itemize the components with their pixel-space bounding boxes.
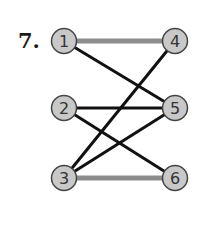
node-label: 6: [170, 169, 180, 188]
node-label: 1: [59, 32, 69, 51]
node-4: 4: [163, 29, 188, 54]
node-label: 4: [170, 32, 180, 51]
edges: [64, 41, 175, 178]
node-2: 2: [52, 96, 77, 121]
node-label: 5: [170, 99, 180, 118]
node-label: 2: [59, 99, 69, 118]
bipartite-graph: 123456: [0, 0, 199, 231]
edge-1-5: [64, 41, 175, 108]
node-3: 3: [52, 166, 77, 191]
node-label: 3: [59, 169, 69, 188]
node-5: 5: [163, 96, 188, 121]
node-1: 1: [52, 29, 77, 54]
node-6: 6: [163, 166, 188, 191]
